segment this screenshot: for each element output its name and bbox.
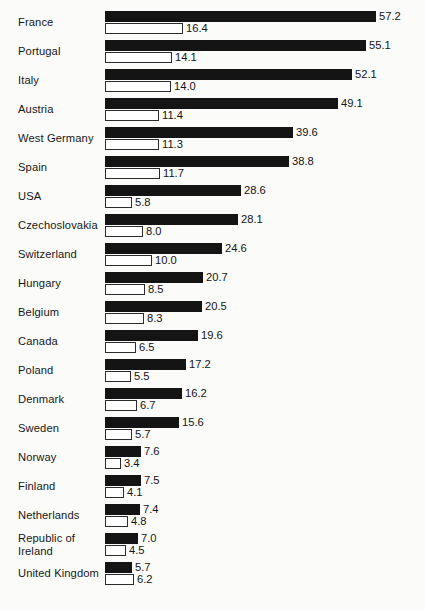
bar-group-2: 5.7 bbox=[105, 429, 425, 440]
bar-group-1: 5.7 bbox=[105, 562, 425, 573]
bar-group-1: 55.1 bbox=[105, 40, 425, 51]
bar-value-label: 5.8 bbox=[135, 197, 151, 208]
bar-series-1 bbox=[105, 185, 241, 196]
bar-value-label: 38.8 bbox=[292, 156, 314, 167]
bar-value-label: 55.1 bbox=[369, 40, 391, 51]
bar-series-2 bbox=[105, 574, 134, 585]
category-label: Sweden bbox=[18, 414, 104, 443]
bar-group-1: 7.5 bbox=[105, 475, 425, 486]
bar-series-1 bbox=[105, 243, 222, 254]
bar-group-2: 3.4 bbox=[105, 458, 425, 469]
bar-value-label: 8.5 bbox=[148, 284, 164, 295]
bar-series-2 bbox=[105, 197, 132, 208]
figure-caption bbox=[16, 603, 416, 611]
bar-series-2 bbox=[105, 342, 136, 353]
bar-group-2: 5.8 bbox=[105, 197, 425, 208]
bars-area: 15.65.7 bbox=[105, 417, 425, 441]
bar-group-2: 6.5 bbox=[105, 342, 425, 353]
chart-row: Norway7.63.4 bbox=[0, 443, 425, 472]
bar-value-label: 4.8 bbox=[131, 516, 147, 527]
bar-series-2 bbox=[105, 458, 121, 469]
bars-area: 49.111.4 bbox=[105, 98, 425, 122]
bars-area: 24.610.0 bbox=[105, 243, 425, 267]
bar-series-1 bbox=[105, 446, 141, 457]
bar-group-1: 7.0 bbox=[105, 533, 425, 544]
bar-group-1: 28.1 bbox=[105, 214, 425, 225]
bar-group-1: 49.1 bbox=[105, 98, 425, 109]
bar-value-label: 14.1 bbox=[175, 52, 197, 63]
bar-series-1 bbox=[105, 359, 186, 370]
bar-group-2: 4.8 bbox=[105, 516, 425, 527]
chart-row: Belgium20.58.3 bbox=[0, 298, 425, 327]
category-label: Austria bbox=[18, 95, 104, 124]
chart-row: USA28.65.8 bbox=[0, 182, 425, 211]
bar-series-2 bbox=[105, 371, 131, 382]
bar-group-1: 24.6 bbox=[105, 243, 425, 254]
bar-series-2 bbox=[105, 168, 160, 179]
category-label: Canada bbox=[18, 327, 104, 356]
bar-value-label: 4.1 bbox=[127, 487, 143, 498]
bar-series-1 bbox=[105, 127, 293, 138]
category-label: Finland bbox=[18, 472, 104, 501]
bars-area: 7.54.1 bbox=[105, 475, 425, 499]
bar-group-1: 57.2 bbox=[105, 11, 425, 22]
category-label: United Kingdom bbox=[18, 559, 104, 588]
bar-series-1 bbox=[105, 504, 140, 515]
bars-area: 17.25.5 bbox=[105, 359, 425, 383]
category-label: Norway bbox=[18, 443, 104, 472]
chart-row: Hungary20.78.5 bbox=[0, 269, 425, 298]
bar-series-1 bbox=[105, 475, 141, 486]
bar-value-label: 7.6 bbox=[144, 446, 160, 457]
chart-row: Switzerland24.610.0 bbox=[0, 240, 425, 269]
bar-group-1: 39.6 bbox=[105, 127, 425, 138]
chart-rows: France57.216.4Portugal55.114.1Italy52.11… bbox=[0, 8, 425, 588]
bar-value-label: 19.6 bbox=[201, 330, 223, 341]
bars-area: 28.65.8 bbox=[105, 185, 425, 209]
bar-series-1 bbox=[105, 214, 238, 225]
bars-area: 57.216.4 bbox=[105, 11, 425, 35]
category-label: Czechoslovakia bbox=[18, 211, 104, 240]
bars-area: 7.04.5 bbox=[105, 533, 425, 557]
bar-group-1: 15.6 bbox=[105, 417, 425, 428]
bar-series-1 bbox=[105, 301, 202, 312]
bar-value-label: 6.7 bbox=[140, 400, 156, 411]
bar-value-label: 15.6 bbox=[182, 417, 204, 428]
bar-group-1: 52.1 bbox=[105, 69, 425, 80]
bar-value-label: 17.2 bbox=[189, 359, 211, 370]
bar-series-1 bbox=[105, 330, 198, 341]
bar-value-label: 7.0 bbox=[141, 533, 157, 544]
bar-value-label: 8.3 bbox=[147, 313, 163, 324]
bar-series-2 bbox=[105, 139, 159, 150]
bar-value-label: 11.7 bbox=[163, 168, 184, 179]
bar-series-2 bbox=[105, 487, 124, 498]
bar-series-1 bbox=[105, 40, 366, 51]
bar-value-label: 6.5 bbox=[139, 342, 155, 353]
category-label: Belgium bbox=[18, 298, 104, 327]
bar-group-1: 7.6 bbox=[105, 446, 425, 457]
bar-value-label: 57.2 bbox=[379, 11, 401, 22]
bar-group-1: 20.5 bbox=[105, 301, 425, 312]
bar-group-2: 10.0 bbox=[105, 255, 425, 266]
bar-value-label: 3.4 bbox=[124, 458, 140, 469]
bar-group-2: 8.0 bbox=[105, 226, 425, 237]
chart-row: Czechoslovakia28.18.0 bbox=[0, 211, 425, 240]
category-label: Republic of Ireland bbox=[18, 530, 104, 559]
category-label: Denmark bbox=[18, 385, 104, 414]
bar-series-1 bbox=[105, 533, 138, 544]
category-label: USA bbox=[18, 182, 104, 211]
bar-series-2 bbox=[105, 313, 144, 324]
bars-area: 7.44.8 bbox=[105, 504, 425, 528]
bar-group-2: 4.5 bbox=[105, 545, 425, 556]
bars-area: 19.66.5 bbox=[105, 330, 425, 354]
bar-group-1: 38.8 bbox=[105, 156, 425, 167]
chart-row: Republic of Ireland7.04.5 bbox=[0, 530, 425, 559]
bar-value-label: 5.7 bbox=[135, 429, 151, 440]
chart-row: Italy52.114.0 bbox=[0, 66, 425, 95]
bar-value-label: 11.3 bbox=[162, 139, 183, 150]
bar-group-1: 20.7 bbox=[105, 272, 425, 283]
bar-series-1 bbox=[105, 11, 376, 22]
chart-row: West Germany39.611.3 bbox=[0, 124, 425, 153]
bars-area: 39.611.3 bbox=[105, 127, 425, 151]
chart-row: Spain38.811.7 bbox=[0, 153, 425, 182]
bar-group-2: 6.2 bbox=[105, 574, 425, 585]
